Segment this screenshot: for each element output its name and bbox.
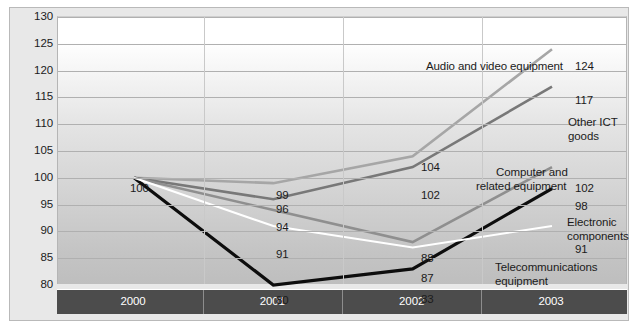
- y-axis-tick-label: 80: [11, 278, 53, 290]
- y-axis-tick-label: 120: [11, 64, 53, 76]
- gridline: [58, 231, 626, 232]
- series-annotation-label: Audio and video equipment: [426, 60, 563, 73]
- data-point-label: 102: [575, 182, 594, 194]
- series-annotation-label: goods: [568, 130, 599, 143]
- series-annotation-label: Telecommunications: [495, 261, 597, 274]
- y-axis-tick-label: 110: [11, 117, 53, 129]
- y-axis-tick-label: 100: [11, 171, 53, 183]
- data-point-label: 102: [421, 189, 440, 201]
- plot-area: [57, 16, 627, 284]
- series-annotation-label: components: [567, 230, 629, 243]
- x-axis-tick-label: 2003: [538, 295, 563, 307]
- data-point-label: 88: [421, 252, 434, 264]
- data-point-label: 87: [421, 272, 434, 284]
- series-annotation-label: Computer and: [496, 166, 568, 179]
- gridline: [58, 205, 626, 206]
- data-point-label: 91: [276, 248, 289, 260]
- data-point-label: 99: [276, 189, 289, 201]
- series-annotation-label: related equipment: [476, 180, 566, 193]
- y-axis-tick-label: 85: [11, 251, 53, 263]
- data-point-label: 98: [575, 200, 588, 212]
- data-point-label: 124: [575, 60, 594, 72]
- category-separator: [204, 17, 205, 284]
- series-annotation-label: Electronic: [567, 216, 617, 229]
- data-point-label: 91: [575, 243, 588, 255]
- x-axis-tick-label: 2000: [120, 295, 145, 307]
- category-separator: [482, 17, 483, 284]
- gridline: [58, 97, 626, 98]
- y-axis-tick-label: 95: [11, 198, 53, 210]
- data-point-label: 104: [421, 161, 440, 173]
- gridline: [58, 258, 626, 259]
- chart-container: 13012512011511010510095908580 2000200120…: [9, 7, 629, 321]
- data-point-label: 96: [276, 203, 289, 215]
- y-axis: 13012512011511010510095908580: [10, 8, 57, 322]
- data-point-label: 94: [276, 221, 289, 233]
- category-separator: [343, 17, 344, 284]
- gridline: [58, 124, 626, 125]
- y-axis-tick-label: 105: [11, 144, 53, 156]
- series-annotation-label: Other ICT: [568, 116, 618, 129]
- x-axis-separator: [481, 290, 482, 314]
- x-axis-separator: [203, 290, 204, 314]
- x-axis: 2000200120022003: [57, 289, 627, 314]
- data-point-label: 83: [421, 293, 434, 305]
- y-axis-tick-label: 115: [11, 90, 53, 102]
- y-axis-tick-label: 130: [11, 10, 53, 22]
- data-point-label: 100: [130, 182, 149, 194]
- data-point-label: 80: [276, 294, 289, 306]
- y-axis-tick-label: 125: [11, 37, 53, 49]
- series-annotation-label: equipment: [495, 275, 548, 288]
- gridline: [58, 44, 626, 45]
- gridline: [58, 17, 626, 18]
- x-axis-separator: [342, 290, 343, 314]
- y-axis-tick-label: 90: [11, 224, 53, 236]
- data-point-label: 117: [575, 94, 593, 106]
- gridline: [58, 151, 626, 152]
